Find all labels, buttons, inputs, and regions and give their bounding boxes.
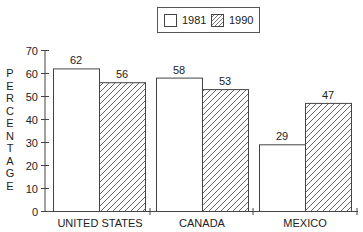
x-tick-canada: CANADA <box>147 217 257 229</box>
svg-text:58: 58 <box>173 64 185 76</box>
svg-text:50: 50 <box>26 91 38 103</box>
bars <box>54 69 352 212</box>
svg-text:30: 30 <box>26 137 38 149</box>
svg-text:56: 56 <box>116 68 128 80</box>
svg-text:53: 53 <box>219 75 231 87</box>
svg-text:70: 70 <box>26 45 38 57</box>
svg-text:47: 47 <box>322 89 334 101</box>
svg-text:29: 29 <box>276 130 288 142</box>
svg-text:62: 62 <box>70 54 82 66</box>
svg-text:40: 40 <box>26 114 38 126</box>
svg-text:0: 0 <box>32 206 38 218</box>
svg-text:20: 20 <box>26 160 38 172</box>
x-tick-united-states: UNITED STATES <box>45 217 155 229</box>
x-tick-mexico: MEXICO <box>250 217 360 229</box>
plot-area: 010203040506070625658532947 <box>0 0 363 232</box>
svg-text:60: 60 <box>26 68 38 80</box>
svg-text:10: 10 <box>26 183 38 195</box>
